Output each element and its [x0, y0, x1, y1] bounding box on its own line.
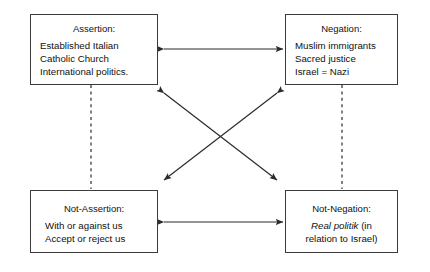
- box-not-negation-line-2: relation to Israel): [286, 232, 397, 245]
- box-not-assertion-title: Not-Assertion:: [31, 202, 157, 215]
- box-negation-line-3: Israel = Nazi: [295, 65, 397, 78]
- box-negation-title: Negation:: [286, 22, 397, 35]
- box-assertion-title: Assertion:: [31, 22, 157, 35]
- box-not-negation-line-1-plain: (in: [358, 220, 371, 231]
- box-assertion-line-1: Established Italian: [40, 39, 157, 52]
- semiotic-square-diagram: Assertion: Established Italian Catholic …: [0, 0, 430, 272]
- real-politik-term: Real politik: [311, 220, 358, 231]
- box-assertion-line-2: Catholic Church: [40, 52, 157, 65]
- box-not-assertion: Not-Assertion: With or against us Accept…: [30, 190, 158, 253]
- box-assertion: Assertion: Established Italian Catholic …: [30, 14, 158, 85]
- box-assertion-lines: Established Italian Catholic Church Inte…: [31, 39, 157, 79]
- box-not-negation-title: Not-Negation:: [286, 202, 397, 215]
- box-not-assertion-line-2: Accept or reject us: [45, 232, 157, 245]
- box-negation-lines: Muslim immigrants Sacred justice Israel …: [286, 39, 397, 79]
- box-not-negation-lines: Real politik (in relation to Israel): [286, 219, 397, 245]
- box-not-negation-line-1: Real politik (in: [286, 219, 397, 232]
- box-negation: Negation: Muslim immigrants Sacred justi…: [285, 14, 398, 85]
- box-not-assertion-line-1: With or against us: [45, 219, 157, 232]
- box-not-negation: Not-Negation: Real politik (in relation …: [285, 190, 398, 253]
- box-not-assertion-lines: With or against us Accept or reject us: [31, 219, 157, 245]
- box-negation-line-1: Muslim immigrants: [295, 39, 397, 52]
- box-negation-line-2: Sacred justice: [295, 52, 397, 65]
- box-assertion-line-3: International politics.: [40, 65, 157, 78]
